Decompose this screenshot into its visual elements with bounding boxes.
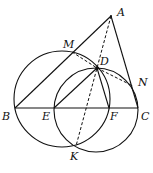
- label-M: M: [62, 38, 75, 51]
- label-C: C: [141, 110, 150, 123]
- label-E: E: [41, 110, 50, 123]
- point-A-dot: [110, 15, 112, 17]
- circle-left: [14, 51, 110, 147]
- label-B: B: [1, 110, 10, 123]
- segment-AC: [111, 16, 138, 108]
- label-A: A: [116, 6, 125, 19]
- segment-MD-dashed: [72, 52, 97, 68]
- point-D-dot: [95, 66, 99, 70]
- label-K: K: [69, 150, 79, 163]
- geometry-diagram: A M D N B E F C K: [0, 0, 153, 173]
- segment-AK-dashed: [76, 16, 111, 146]
- segment-AB: [15, 16, 111, 108]
- label-F: F: [109, 110, 118, 123]
- circle-right: [54, 68, 138, 152]
- label-N: N: [137, 76, 148, 89]
- label-D: D: [99, 55, 109, 68]
